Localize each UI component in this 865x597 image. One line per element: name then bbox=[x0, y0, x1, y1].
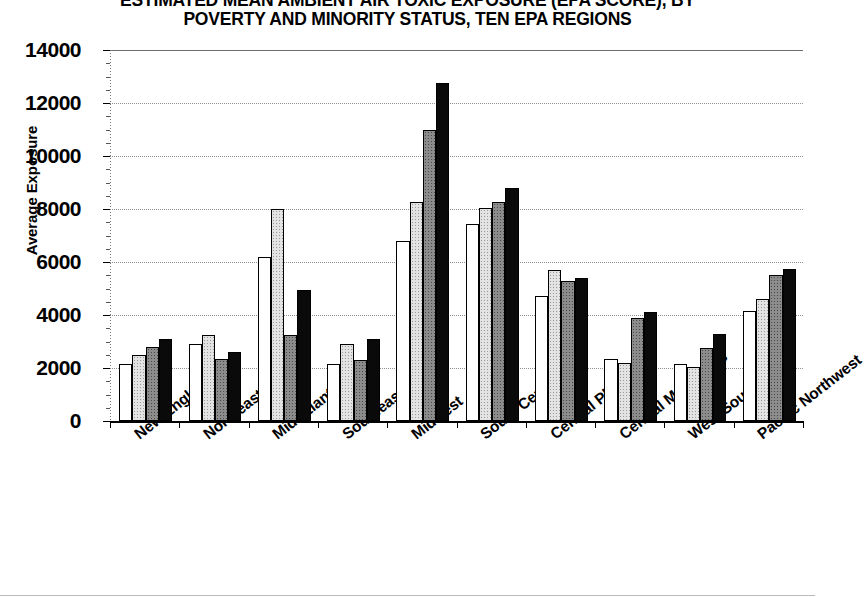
bar-group bbox=[387, 50, 456, 421]
bar bbox=[327, 364, 340, 421]
bar bbox=[146, 347, 159, 421]
bar bbox=[228, 352, 241, 421]
bar-groups bbox=[110, 50, 803, 421]
bar bbox=[687, 367, 700, 421]
bar bbox=[700, 348, 713, 421]
y-tick-label-14000: 14000 bbox=[0, 38, 81, 62]
y-tick-label-6000: 6000 bbox=[0, 250, 81, 274]
bar bbox=[548, 270, 561, 421]
bar-group bbox=[526, 50, 595, 421]
bottom-rule bbox=[0, 595, 815, 596]
bar bbox=[396, 241, 409, 421]
y-tick-mark-8000 bbox=[103, 209, 110, 210]
bar-group bbox=[318, 50, 387, 421]
y-tick-mark-2000 bbox=[103, 368, 110, 369]
chart-title-line-2: POVERTY AND MINORITY STATUS, TEN EPA REG… bbox=[0, 10, 815, 29]
bar bbox=[769, 275, 782, 421]
plot-area: 02000400060008000100001200014000 bbox=[110, 50, 803, 421]
y-tick-mark-0 bbox=[103, 421, 110, 422]
bar bbox=[505, 188, 518, 421]
y-tick-mark-12000 bbox=[103, 103, 110, 104]
y-tick-label-4000: 4000 bbox=[0, 303, 81, 327]
bar bbox=[423, 130, 436, 422]
bar bbox=[631, 318, 644, 421]
bar bbox=[159, 339, 172, 421]
bar bbox=[297, 290, 310, 421]
bar-group bbox=[457, 50, 526, 421]
bar bbox=[202, 335, 215, 421]
bar bbox=[535, 296, 548, 421]
y-tick-mark-4000 bbox=[103, 315, 110, 316]
y-tick-label-2000: 2000 bbox=[0, 356, 81, 380]
chart-title: ESTIMATED MEAN AMBIENT AIR TOXIC EXPOSUR… bbox=[0, 0, 815, 29]
bar bbox=[618, 363, 631, 421]
bar bbox=[466, 224, 479, 421]
bar bbox=[132, 355, 145, 421]
bar-group bbox=[734, 50, 803, 421]
bar bbox=[258, 257, 271, 421]
bar bbox=[479, 208, 492, 421]
bar bbox=[644, 312, 657, 421]
bar-group bbox=[179, 50, 248, 421]
bar bbox=[783, 269, 796, 421]
bar-group bbox=[249, 50, 318, 421]
bar bbox=[367, 339, 380, 421]
bar bbox=[561, 281, 574, 421]
bar bbox=[604, 359, 617, 421]
bar bbox=[340, 344, 353, 421]
bar bbox=[674, 364, 687, 421]
x-tick-mark bbox=[803, 421, 804, 428]
bar bbox=[410, 202, 423, 421]
y-tick-mark-10000 bbox=[103, 156, 110, 157]
bar bbox=[492, 202, 505, 421]
y-tick-mark-14000 bbox=[103, 50, 110, 51]
bar bbox=[189, 344, 202, 421]
bar bbox=[756, 299, 769, 421]
y-tick-label-0: 0 bbox=[0, 409, 81, 433]
y-tick-label-8000: 8000 bbox=[0, 197, 81, 221]
bar bbox=[215, 359, 228, 421]
bar bbox=[354, 360, 367, 421]
y-tick-label-10000: 10000 bbox=[0, 144, 81, 168]
bar-group bbox=[110, 50, 179, 421]
bar-group bbox=[595, 50, 664, 421]
y-tick-label-12000: 12000 bbox=[0, 91, 81, 115]
bar bbox=[284, 335, 297, 421]
bar bbox=[713, 334, 726, 421]
bar bbox=[575, 278, 588, 421]
bar bbox=[271, 209, 284, 421]
bar bbox=[119, 364, 132, 421]
y-tick-mark-6000 bbox=[103, 262, 110, 263]
bar bbox=[743, 311, 756, 421]
bar bbox=[436, 83, 449, 421]
x-axis-labels: New EnglandNortheastMid AtlanticSoutheas… bbox=[110, 421, 803, 597]
